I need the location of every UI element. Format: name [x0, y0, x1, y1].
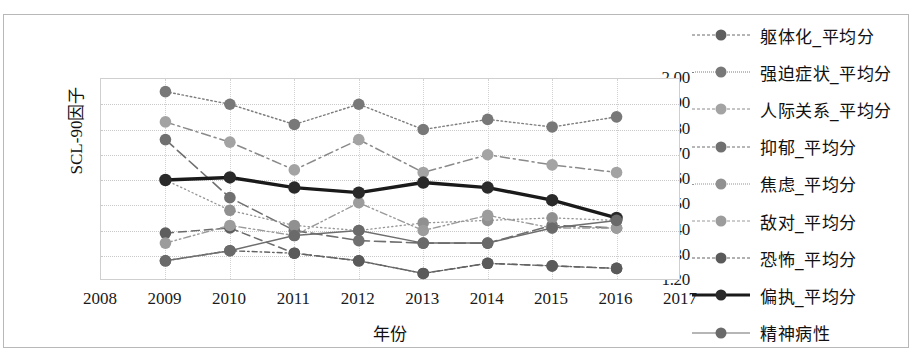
data-point: [160, 134, 172, 146]
data-point: [289, 220, 301, 232]
data-point: [546, 212, 558, 224]
legend-marker-sample: [716, 67, 727, 78]
data-point: [160, 116, 172, 128]
legend-item-8[interactable]: 精神病性: [690, 316, 830, 350]
data-point: [417, 225, 429, 237]
legend-marker-sample: [716, 30, 727, 41]
x-axis-label: 年份: [100, 320, 680, 345]
legend-key-icon: [690, 63, 752, 81]
data-point: [546, 194, 558, 206]
legend-label: 偏执_平均分: [760, 283, 857, 308]
data-point: [353, 225, 365, 237]
legend-item-4[interactable]: 焦虑_平均分: [690, 167, 857, 201]
data-point: [160, 227, 172, 239]
y-axis-label: SCL-90因子: [62, 51, 87, 211]
data-point: [417, 268, 429, 280]
x-tick-label: 2009: [129, 290, 199, 307]
legend-item-3[interactable]: 抑郁_平均分: [690, 130, 857, 164]
data-point: [546, 121, 558, 133]
x-tick-label: 2008: [65, 290, 135, 307]
data-point: [611, 111, 623, 123]
legend-key-icon: [690, 286, 752, 304]
legend-key-icon: [690, 100, 752, 118]
data-point: [481, 181, 493, 193]
legend-marker-sample: [716, 290, 727, 301]
data-point: [546, 222, 558, 234]
legend-label: 恐怖_平均分: [760, 246, 857, 271]
data-point: [289, 119, 301, 131]
data-point: [611, 215, 623, 227]
legend-marker-sample: [716, 178, 727, 189]
data-point: [482, 258, 494, 270]
legend-key-icon: [690, 175, 752, 193]
legend-label: 精神病性: [760, 320, 830, 345]
legend-key-icon: [690, 249, 752, 267]
legend-marker-sample: [716, 253, 727, 264]
data-point: [288, 181, 300, 193]
legend-key-icon: [690, 138, 752, 156]
legend-key-icon: [690, 212, 752, 230]
x-tick-label: 2013: [387, 290, 457, 307]
legend-label: 人际关系_平均分: [760, 97, 892, 122]
legend-label: 抑郁_平均分: [760, 134, 857, 159]
data-point: [546, 159, 558, 171]
data-point: [353, 134, 365, 146]
legend-item-1[interactable]: 强迫症状_平均分: [690, 55, 892, 89]
x-tick-label: 2016: [581, 290, 651, 307]
legend-item-2[interactable]: 人际关系_平均分: [690, 92, 892, 126]
data-point: [546, 260, 558, 272]
legend-item-5[interactable]: 敌对_平均分: [690, 204, 857, 238]
legend-item-6[interactable]: 恐怖_平均分: [690, 241, 857, 275]
data-point: [482, 149, 494, 161]
x-tick-label: 2014: [452, 290, 522, 307]
plot-area: [100, 78, 680, 280]
x-tick-label: 2011: [258, 290, 328, 307]
legend-marker-sample: [716, 327, 727, 338]
data-point: [289, 247, 301, 259]
data-point: [482, 210, 494, 222]
data-point: [160, 237, 172, 249]
data-point: [289, 230, 301, 242]
data-point: [611, 263, 623, 275]
legend-key-icon: [690, 26, 752, 44]
data-point: [289, 164, 301, 176]
plot-wrapper: SCL-90因子 2.001.901.801.701.601.501.401.3…: [0, 0, 690, 353]
data-point: [611, 167, 623, 179]
chart-figure: SCL-90因子 2.001.901.801.701.601.501.401.3…: [0, 0, 915, 353]
legend-item-0[interactable]: 躯体化_平均分: [690, 18, 874, 52]
legend-label: 焦虑_平均分: [760, 171, 857, 196]
legend-label: 敌对_平均分: [760, 209, 857, 234]
data-point: [353, 186, 365, 198]
legend-key-icon: [690, 324, 752, 342]
data-point: [224, 245, 236, 257]
legend-item-7[interactable]: 偏执_平均分: [690, 278, 857, 312]
data-point: [224, 220, 236, 232]
data-point: [417, 124, 429, 136]
x-tick-label: 2015: [516, 290, 586, 307]
data-point: [224, 192, 236, 204]
x-tick-label: 2010: [194, 290, 264, 307]
data-point: [224, 98, 236, 110]
data-point: [353, 235, 365, 247]
data-point: [224, 205, 236, 217]
series-1: [160, 86, 623, 135]
legend-marker-sample: [716, 216, 727, 227]
data-point: [482, 114, 494, 126]
data-point: [224, 171, 236, 183]
data-point: [353, 255, 365, 267]
data-point: [417, 237, 429, 249]
x-tick-label: 2012: [323, 290, 393, 307]
data-point: [417, 176, 429, 188]
data-point: [160, 86, 172, 98]
legend: 躯体化_平均分强迫症状_平均分人际关系_平均分抑郁_平均分焦虑_平均分敌对_平均…: [690, 8, 912, 348]
legend-label: 躯体化_平均分: [760, 23, 874, 48]
data-point: [159, 174, 171, 186]
legend-marker-sample: [716, 104, 727, 115]
legend-label: 强迫症状_平均分: [760, 60, 892, 85]
data-point: [224, 136, 236, 148]
series-lines-svg: [101, 79, 681, 281]
data-point: [482, 237, 494, 249]
data-point: [160, 255, 172, 267]
legend-marker-sample: [716, 141, 727, 152]
data-point: [353, 98, 365, 110]
